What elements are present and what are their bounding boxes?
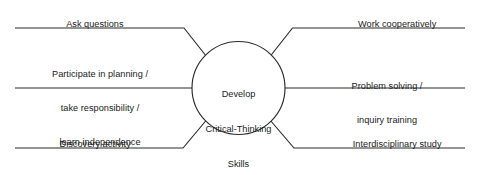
branch-label-participate-line-2: take responsibility / [20,103,180,114]
branch-label-interdisciplinary-study-text: Interdisciplinary study [353,139,442,149]
branch-label-work-cooperatively-text: Work cooperatively [358,19,436,29]
branch-label-problem-solving-line-1: Problem solving / [312,81,462,92]
branch-label-discovery-activity-text: Discovery activity [59,139,130,149]
hub-label-line-1: Develop [192,89,285,101]
hub-label: Develop Critical-Thinking Skills [192,66,285,175]
branch-label-interdisciplinary-study: Interdisciplinary study [318,128,466,162]
branch-label-problem-solving-line-2: inquiry training [312,115,462,126]
hub-label-line-2: Critical-Thinking [192,124,285,136]
branch-label-participate-line-1: Participate in planning / [20,69,180,80]
diagram-canvas: Develop Critical-Thinking Skills Ask que… [0,0,480,175]
branch-label-ask-questions-text: Ask questions [66,19,123,29]
branch-label-discovery-activity: Discovery activity [22,128,158,162]
branch-label-ask-questions: Ask questions [22,8,158,42]
hub-label-line-3: Skills [192,159,285,171]
branch-label-work-cooperatively: Work cooperatively [322,8,462,42]
